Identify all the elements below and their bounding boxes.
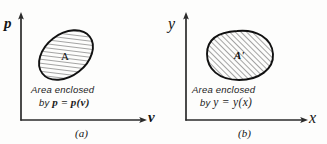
panel-b-subcaption: (b) bbox=[163, 127, 326, 139]
y-axis bbox=[183, 12, 189, 120]
panel-a-caption-prefix: by bbox=[39, 97, 52, 108]
p-axis-label: p bbox=[4, 16, 12, 31]
p-axis bbox=[18, 12, 24, 120]
panel-a-caption-line2: by p = p(v) bbox=[31, 96, 94, 109]
figure-container: p v A Area enclosed by p = p(v) (a) bbox=[0, 0, 327, 144]
panel-b-caption: Area enclosed by y = y(x) bbox=[192, 84, 255, 109]
panel-b-graphic bbox=[163, 0, 326, 144]
panel-a-equation: p = p(v) bbox=[52, 96, 89, 108]
y-axis-label: y bbox=[168, 16, 175, 32]
panel-b-caption-prefix: by bbox=[200, 97, 213, 108]
v-axis-label: v bbox=[148, 110, 155, 125]
panel-a-graphic bbox=[0, 0, 163, 144]
panel-b: y x A' Area enclosed by y = y(x) (b) bbox=[163, 0, 326, 144]
x-axis bbox=[186, 117, 308, 123]
x-axis-label: x bbox=[309, 110, 316, 126]
panel-b-caption-line1: Area enclosed bbox=[192, 84, 255, 96]
region-b-label: A' bbox=[234, 50, 244, 61]
panel-a: p v A Area enclosed by p = p(v) (a) bbox=[0, 0, 163, 144]
panel-a-caption-line1: Area enclosed bbox=[31, 84, 94, 96]
v-axis bbox=[21, 117, 147, 123]
panel-b-equation: y = y(x) bbox=[213, 96, 252, 108]
panel-a-subcaption: (a) bbox=[0, 127, 163, 139]
panel-a-caption: Area enclosed by p = p(v) bbox=[31, 84, 94, 109]
region-a-label: A bbox=[61, 51, 69, 62]
panel-b-caption-line2: by y = y(x) bbox=[192, 96, 255, 109]
